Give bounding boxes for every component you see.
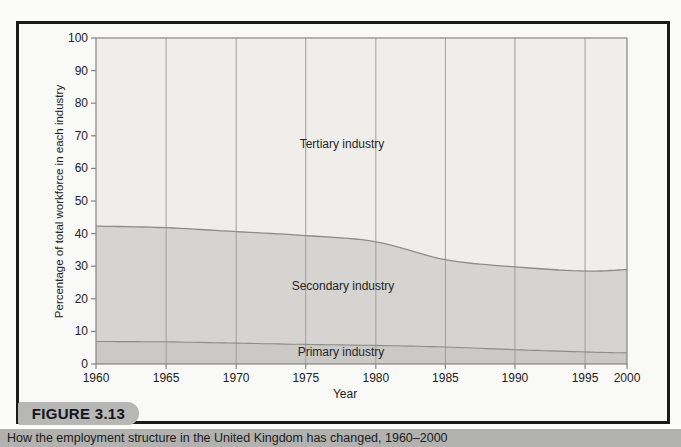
svg-text:1995: 1995	[572, 371, 599, 385]
primary-industry-label: Primary industry	[241, 345, 441, 359]
tertiary-industry-label: Tertiary industry	[242, 137, 442, 151]
y-axis-title: Percentage of total workforce in each in…	[53, 39, 68, 365]
figure-badge-label: FIGURE 3.13	[32, 405, 125, 422]
svg-text:70: 70	[75, 129, 89, 143]
plot-svg: 0102030405060708090100196019651970197519…	[19, 24, 667, 421]
figure-badge: FIGURE 3.13	[18, 402, 139, 425]
svg-text:10: 10	[75, 324, 89, 338]
svg-text:1975: 1975	[292, 371, 319, 385]
figure-frame: 0102030405060708090100196019651970197519…	[16, 21, 670, 424]
svg-text:2000: 2000	[614, 371, 641, 385]
svg-text:100: 100	[68, 31, 88, 45]
svg-text:1960: 1960	[83, 371, 110, 385]
svg-text:1980: 1980	[362, 371, 389, 385]
svg-text:0: 0	[81, 357, 88, 371]
svg-text:1990: 1990	[502, 371, 529, 385]
svg-text:20: 20	[75, 292, 89, 306]
figure-caption: How the employment structure in the Unit…	[0, 429, 681, 447]
svg-text:60: 60	[75, 161, 89, 175]
svg-text:40: 40	[75, 227, 89, 241]
svg-text:90: 90	[75, 64, 89, 78]
svg-text:1970: 1970	[223, 371, 250, 385]
svg-text:30: 30	[75, 259, 89, 273]
svg-text:1965: 1965	[153, 371, 180, 385]
caption-bar: How the employment structure in the Unit…	[0, 429, 681, 447]
svg-text:1985: 1985	[432, 371, 459, 385]
secondary-industry-label: Secondary industry	[243, 279, 443, 293]
svg-text:80: 80	[75, 96, 89, 110]
x-axis-title: Year	[245, 387, 445, 401]
svg-text:50: 50	[75, 194, 89, 208]
